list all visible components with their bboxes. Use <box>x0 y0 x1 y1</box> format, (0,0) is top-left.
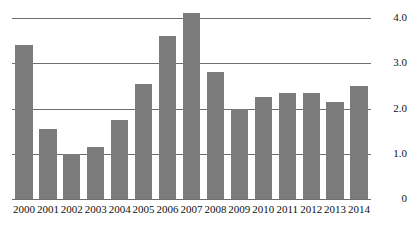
bar <box>159 36 176 199</box>
bar <box>207 72 224 199</box>
x-axis-tick-label: 2002 <box>60 203 84 216</box>
x-axis-tick-label: 2007 <box>180 203 204 216</box>
x-axis-tick-label: 2001 <box>36 203 60 216</box>
x-axis-tick-label: 2011 <box>275 203 299 216</box>
y-axis-tick-label: 1.0 <box>375 148 407 159</box>
bar <box>111 120 128 199</box>
x-axis-tick-label: 2014 <box>347 203 371 216</box>
y-axis-tick-label: 4.0 <box>375 12 407 23</box>
bar <box>231 109 248 200</box>
bar <box>63 154 80 199</box>
y-axis-tick-label: 2.0 <box>375 103 407 114</box>
y-axis-tick-label: 0 <box>375 193 407 204</box>
x-axis-tick-label: 2004 <box>108 203 132 216</box>
bar <box>87 147 104 199</box>
y-axis-tick-label: 3.0 <box>375 57 407 68</box>
bar <box>255 97 272 199</box>
bar <box>15 45 32 199</box>
bar <box>303 93 320 199</box>
bar <box>39 129 56 199</box>
axis-baseline <box>12 199 371 200</box>
bar <box>135 84 152 199</box>
bar <box>326 102 343 199</box>
bar-chart: 4.03.02.01.00 20002001200220032004200520… <box>0 0 409 229</box>
x-axis-tick-label: 2005 <box>132 203 156 216</box>
x-axis-tick-label: 2003 <box>84 203 108 216</box>
bar <box>350 86 367 199</box>
x-axis-tick-label: 2000 <box>12 203 36 216</box>
x-axis-tick-label: 2006 <box>156 203 180 216</box>
bar <box>279 93 296 199</box>
x-axis-tick-label: 2010 <box>251 203 275 216</box>
x-axis-tick-label: 2013 <box>323 203 347 216</box>
bars-group <box>12 10 371 199</box>
x-axis-tick-label: 2012 <box>299 203 323 216</box>
bar <box>183 13 200 199</box>
x-axis-tick-label: 2008 <box>203 203 227 216</box>
x-axis-tick-label: 2009 <box>227 203 251 216</box>
x-axis-tick-labels: 2000200120022003200420052006200720082009… <box>12 203 371 223</box>
